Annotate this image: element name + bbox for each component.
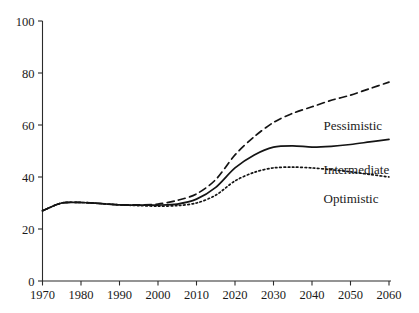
x-tick-label: 2000 — [146, 288, 171, 302]
x-tick-label: 1990 — [107, 288, 132, 302]
x-tick-label: 1980 — [69, 288, 94, 302]
series-label-intermediate: Intermediate — [324, 162, 390, 177]
y-tick-label: 80 — [22, 67, 35, 81]
y-tick-label: 0 — [28, 275, 34, 289]
series-label-pessimistic: Pessimistic — [324, 118, 383, 133]
x-tick-label: 1970 — [30, 288, 55, 302]
chart-canvas: 020406080100 197019801990200020102020203… — [0, 0, 419, 313]
x-tick-label: 2060 — [377, 288, 402, 302]
x-tick-label: 2040 — [300, 288, 325, 302]
series-label-optimistic: Optimistic — [324, 191, 379, 206]
x-tick-group: 1970198019902000201020202030204020502060 — [30, 281, 402, 302]
y-tick-label: 20 — [22, 223, 35, 237]
y-tick-label: 60 — [22, 119, 35, 133]
series-label-group: PessimisticIntermediateOptimistic — [324, 118, 390, 206]
x-axis: 1970198019902000201020202030204020502060 — [30, 281, 402, 302]
y-tick-group: 020406080100 — [16, 15, 43, 289]
x-tick-label: 2010 — [184, 288, 209, 302]
x-tick-label: 2020 — [223, 288, 248, 302]
x-tick-label: 2050 — [338, 288, 363, 302]
y-axis: 020406080100 — [16, 15, 43, 289]
x-tick-label: 2030 — [261, 288, 286, 302]
y-tick-label: 40 — [22, 171, 35, 185]
line-chart: 020406080100 197019801990200020102020203… — [0, 0, 419, 313]
y-tick-label: 100 — [16, 15, 35, 29]
